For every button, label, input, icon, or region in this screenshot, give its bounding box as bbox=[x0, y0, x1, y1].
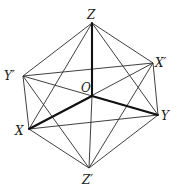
edge-z-xprime bbox=[92, 23, 153, 63]
label-yprime: Y′ bbox=[4, 69, 15, 83]
edge-zprime-xprime bbox=[89, 63, 153, 168]
label-z: Z bbox=[86, 8, 96, 22]
bold-axes bbox=[29, 23, 158, 129]
label-y: Y bbox=[161, 109, 170, 123]
axis-o-y bbox=[92, 96, 158, 115]
edge-y-x bbox=[29, 115, 158, 129]
axis-o-zprime bbox=[89, 96, 92, 168]
label-xprime: X′ bbox=[154, 56, 167, 70]
edge-zprime-y bbox=[89, 115, 158, 168]
edge-xprime-y bbox=[153, 63, 158, 115]
label-zprime: Z′ bbox=[81, 173, 93, 187]
label-x: X bbox=[14, 124, 24, 138]
edge-z-y bbox=[92, 23, 158, 115]
thin-edges bbox=[23, 23, 158, 168]
edge-yprime-xprime bbox=[23, 63, 153, 76]
edge-x-yprime bbox=[23, 76, 29, 129]
label-o: O bbox=[81, 81, 91, 95]
edge-z-yprime bbox=[23, 23, 92, 76]
edge-zprime-x bbox=[29, 129, 89, 168]
octahedron-diagram: Z X′ Y′ O X Y Z′ bbox=[0, 0, 177, 188]
